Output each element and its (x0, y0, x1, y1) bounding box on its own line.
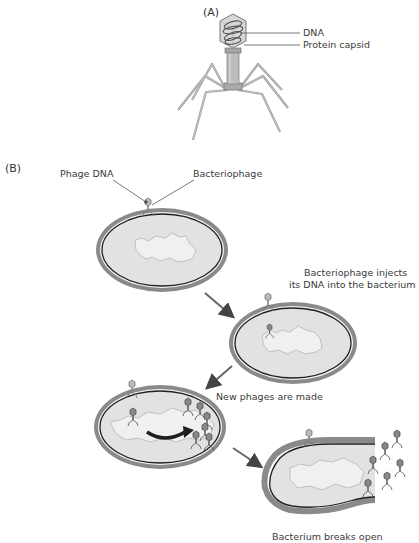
released-phage-icon (380, 442, 390, 460)
bacteriophage-callout-line (152, 180, 194, 205)
step-2-label-line1: Bacteriophage injects (304, 267, 407, 278)
phage-tail (227, 52, 239, 84)
phage-lifecycle-diagram: (A) (0, 0, 419, 543)
released-phage-icon (382, 472, 392, 490)
protein-capsid-label: Protein capsid (303, 39, 370, 50)
released-phage-icon (392, 430, 402, 448)
phage-dna-label: Phage DNA (60, 168, 114, 179)
step-4-label: Bacterium breaks open (272, 531, 383, 542)
bacterium-step-3 (94, 380, 226, 469)
bacterium-step-4-lysed (264, 429, 405, 511)
bacteriophage-label: Bacteriophage (193, 168, 262, 179)
dna-label: DNA (303, 27, 324, 38)
arrow-step-1-to-2 (205, 293, 232, 316)
phage-dna-callout-line (113, 180, 146, 202)
panel-b-label: (B) (5, 162, 21, 175)
arrow-step-3-to-4 (233, 448, 260, 466)
bacteriophage-illustration (178, 14, 300, 140)
step-2-label-line2: its DNA into the bacterium (289, 279, 416, 290)
panel-a-label: (A) (203, 6, 219, 19)
step-3-label: New phages are made (216, 391, 323, 402)
arrow-step-2-to-3 (208, 366, 232, 387)
bacterium-step-2 (229, 293, 357, 384)
released-phage-icon (395, 459, 405, 477)
bacterium-step-1 (96, 198, 228, 292)
